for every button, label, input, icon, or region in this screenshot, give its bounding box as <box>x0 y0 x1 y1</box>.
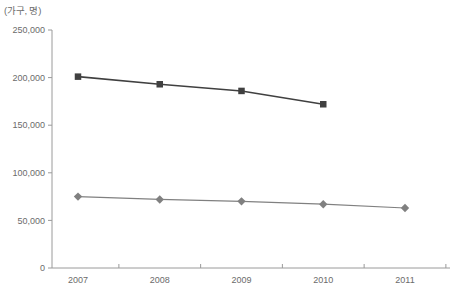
x-axis-tick-label: 2010 <box>313 275 333 285</box>
x-axis-tick-label: 2009 <box>231 275 251 285</box>
data-point-marker <box>401 204 409 212</box>
y-axis-tick-label: 50,000 <box>17 216 45 226</box>
data-point-marker <box>74 192 82 200</box>
x-axis-tick-labels: 20072008200920102011 <box>68 275 415 285</box>
data-point-marker <box>319 200 327 208</box>
x-axis-group: 20072008200920102011 <box>52 264 450 285</box>
x-axis-tick-label: 2011 <box>395 275 414 285</box>
series-line <box>78 77 323 105</box>
data-point-marker <box>320 101 327 108</box>
chart-container: (가구, 명) 050,000100,000150,000200,000250,… <box>0 0 460 291</box>
data-point-marker <box>75 73 82 80</box>
data-point-marker <box>156 195 164 203</box>
y-axis-tick-label: 200,000 <box>12 73 45 83</box>
y-axis-ticks <box>48 30 52 268</box>
y-axis-tick-labels: 050,000100,000150,000200,000250,000 <box>12 25 45 273</box>
y-axis-tick-label: 0 <box>40 263 45 273</box>
x-axis-tick-label: 2008 <box>150 275 170 285</box>
data-point-marker <box>237 197 245 205</box>
y-axis-tick-label: 100,000 <box>12 168 45 178</box>
y-axis-tick-label: 150,000 <box>12 120 45 130</box>
x-axis-ticks <box>119 264 446 268</box>
chart-series <box>75 73 327 107</box>
y-axis-group: 050,000100,000150,000200,000250,000 <box>12 25 52 273</box>
data-point-marker <box>238 88 245 95</box>
line-chart-plot: 050,000100,000150,000200,000250,000 2007… <box>0 0 460 291</box>
series-layer <box>74 73 409 212</box>
y-axis-tick-label: 250,000 <box>12 25 45 35</box>
chart-series <box>74 192 409 212</box>
x-axis-tick-label: 2007 <box>68 275 88 285</box>
data-point-marker <box>157 81 164 88</box>
